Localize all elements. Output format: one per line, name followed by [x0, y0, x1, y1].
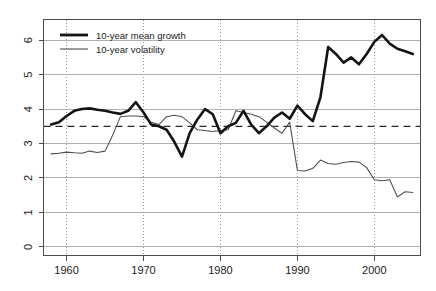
legend-label-growth: 10-year mean growth	[96, 30, 186, 41]
chart-container: 0123456 19601970198019902000 10-year mea…	[0, 0, 436, 291]
y-tick-label: 0	[22, 244, 34, 250]
x-tick-label: 1990	[285, 264, 309, 276]
line-chart: 0123456 19601970198019902000 10-year mea…	[0, 0, 436, 291]
x-tick-label: 1980	[208, 264, 232, 276]
y-tick-label: 6	[22, 37, 34, 43]
y-tick-label: 3	[22, 140, 34, 146]
y-tick-label: 5	[22, 72, 34, 78]
x-tick-label: 2000	[362, 264, 386, 276]
y-tick-label: 2	[22, 175, 34, 181]
x-tick-label: 1960	[54, 264, 78, 276]
legend-label-volatility: 10-year volatility	[96, 44, 165, 55]
x-tick-label: 1970	[131, 264, 155, 276]
y-tick-label: 1	[22, 209, 34, 215]
y-tick-label: 4	[22, 106, 34, 112]
